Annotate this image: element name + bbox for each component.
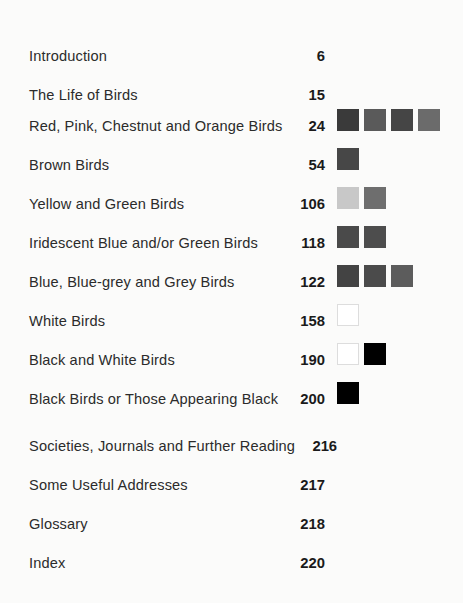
toc-entry-page-number: 158 (289, 302, 325, 341)
toc-entry[interactable]: Iridescent Blue and/or Green Birds118 (0, 217, 463, 256)
toc-entry-colour-swatches (337, 490, 455, 529)
colour-swatch (364, 265, 386, 287)
toc-entry-page-number: 118 (289, 224, 325, 263)
colour-swatch (337, 382, 359, 404)
toc-entry-title: Index (29, 544, 65, 583)
toc-entry[interactable]: Yellow and Green Birds106 (0, 178, 463, 217)
toc-entry-colour-swatches (337, 529, 455, 568)
toc-entry-title: Some Useful Addresses (29, 466, 188, 505)
colour-swatch (391, 265, 413, 287)
toc-entry[interactable]: Introduction6 (0, 22, 463, 61)
toc-entry-colour-swatches (337, 61, 455, 100)
colour-swatch (364, 226, 386, 248)
toc-entry-colour-swatches (337, 373, 455, 412)
toc-entry-page-number: 200 (289, 380, 325, 419)
toc-entry-colour-swatches (337, 139, 455, 178)
toc-entry-title: Blue, Blue-grey and Grey Birds (29, 263, 235, 302)
toc-entry[interactable]: Blue, Blue-grey and Grey Birds122 (0, 256, 463, 295)
toc-entry-page-number: 220 (289, 544, 325, 583)
toc-entry-title: White Birds (29, 302, 105, 341)
colour-swatch (337, 226, 359, 248)
colour-swatch (364, 187, 386, 209)
toc-entry-colour-swatches (337, 178, 455, 217)
toc-entry-colour-swatches (337, 334, 455, 373)
toc-entry-title: Societies, Journals and Further Reading (29, 427, 295, 466)
colour-swatch (364, 343, 386, 365)
toc-entry-page-number: 54 (289, 146, 325, 185)
colour-swatch (364, 109, 386, 131)
toc-entry-page-number: 24 (289, 107, 325, 146)
toc-entry-title: Introduction (29, 37, 107, 76)
colour-swatch (337, 148, 359, 170)
toc-entry-page-number: 106 (289, 185, 325, 224)
toc-entry-colour-swatches (337, 256, 455, 295)
toc-entry-colour-swatches (337, 100, 455, 139)
colour-swatch (337, 187, 359, 209)
toc-entry-colour-swatches (349, 412, 463, 451)
toc-entry-colour-swatches (337, 217, 455, 256)
colour-swatch (337, 109, 359, 131)
colour-swatch (418, 109, 440, 131)
toc-entry[interactable]: Black Birds or Those Appearing Black200 (0, 373, 463, 412)
toc-entry[interactable]: Red, Pink, Chestnut and Orange Birds24 (0, 100, 463, 139)
toc-entry-colour-swatches (337, 451, 455, 490)
toc-entry-colour-swatches (337, 22, 455, 61)
toc-entry-title: Yellow and Green Birds (29, 185, 184, 224)
colour-swatch (337, 343, 359, 365)
colour-swatch (337, 304, 359, 326)
colour-swatch (391, 109, 413, 131)
colour-swatch (337, 265, 359, 287)
toc-entry-page-number: 218 (289, 505, 325, 544)
table-of-contents: Introduction6The Life of Birds15Red, Pin… (0, 0, 463, 603)
toc-entry-title: Iridescent Blue and/or Green Birds (29, 224, 258, 263)
toc-entry[interactable]: Black and White Birds190 (0, 334, 463, 373)
toc-entry-title: Black Birds or Those Appearing Black (29, 380, 278, 419)
toc-entry-title: Red, Pink, Chestnut and Orange Birds (29, 107, 283, 146)
toc-entry-colour-swatches (337, 295, 455, 334)
toc-entry-page-number: 6 (289, 37, 325, 76)
toc-entry-page-number: 217 (289, 466, 325, 505)
toc-entry-title: Black and White Birds (29, 341, 175, 380)
toc-entry-page-number: 190 (289, 341, 325, 380)
toc-entry-page-number: 122 (289, 263, 325, 302)
toc-entry-title: Brown Birds (29, 146, 109, 185)
toc-entry-title: Glossary (29, 505, 88, 544)
toc-entry-page-number: 216 (301, 427, 337, 466)
